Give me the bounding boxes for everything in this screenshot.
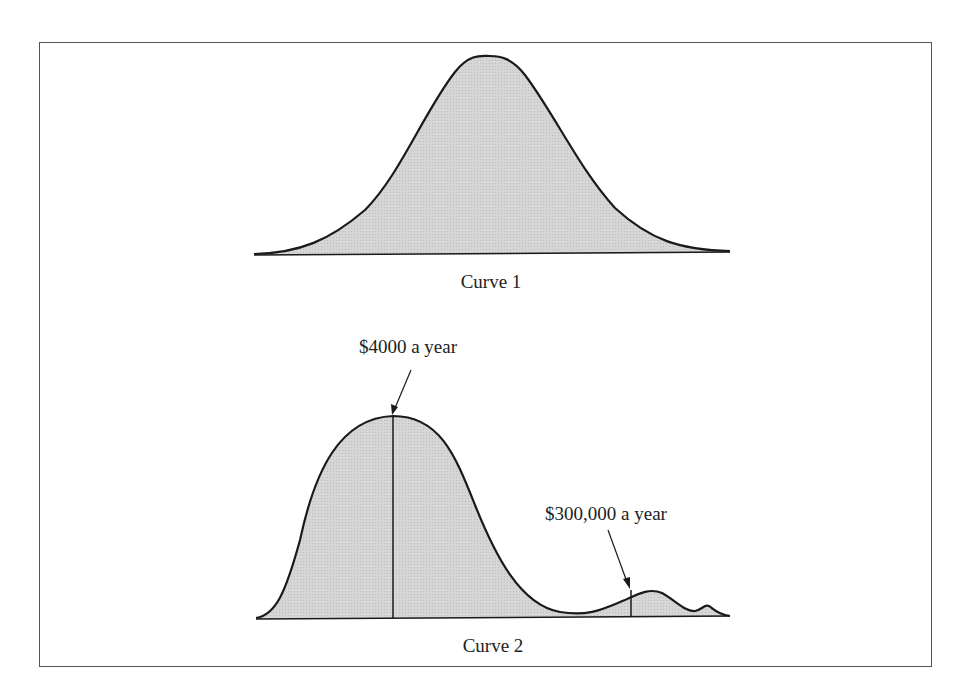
curve-1: Curve 1 [254,56,730,292]
curve-1-caption: Curve 1 [461,271,522,292]
curve-2: $4000 a year $300,000 a year Curve 2 [256,336,730,656]
curve-2-caption: Curve 2 [463,635,524,656]
arrow-secondary-peak [608,530,630,589]
figure-canvas: Curve 1 $4000 a year $300,000 a year Cur… [0,0,969,698]
curve-1-fill [254,56,730,255]
arrow-main-peak [391,370,411,415]
secondary-peak-label: $300,000 a year [545,503,668,524]
main-peak-label: $4000 a year [359,336,458,357]
